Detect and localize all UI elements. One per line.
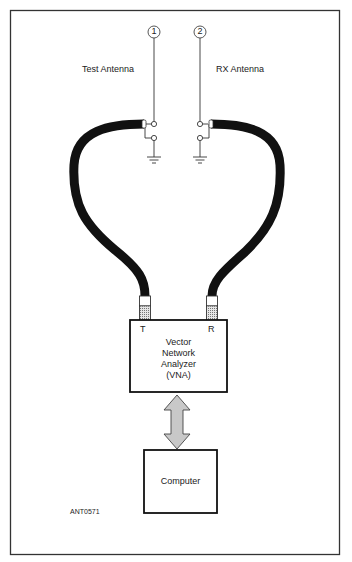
ground-icon xyxy=(147,157,161,163)
antenna-1-number: 1 xyxy=(148,26,160,36)
figure-id: ANT0571 xyxy=(70,508,100,515)
rx-antenna-symbol xyxy=(193,26,209,163)
ground-icon xyxy=(193,157,207,163)
vna-title-line: (VNA) xyxy=(130,370,227,381)
rx-antenna-label: RX Antenna xyxy=(216,64,264,74)
vna-port-t-label: T xyxy=(140,324,146,334)
vna-title: Vector Network Analyzer (VNA) xyxy=(130,337,227,381)
data-link-arrow xyxy=(164,395,190,449)
test-antenna-label: Test Antenna xyxy=(82,64,134,74)
vna-port-r-label: R xyxy=(208,324,215,334)
rx-cable xyxy=(211,124,280,296)
test-cable xyxy=(74,124,145,296)
computer-label: Computer xyxy=(144,476,217,486)
vna-title-line: Vector xyxy=(130,337,227,348)
antenna-2-number: 2 xyxy=(194,26,206,36)
vna-title-line: Network xyxy=(130,348,227,359)
vna-title-line: Analyzer xyxy=(130,359,227,370)
test-antenna-symbol xyxy=(145,26,161,163)
